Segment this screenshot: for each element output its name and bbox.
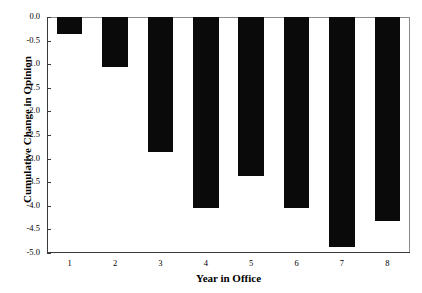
y-tick-label: -1.0 <box>0 58 47 70</box>
x-tick-label: 6 <box>282 258 312 268</box>
bar <box>284 17 309 208</box>
bar <box>329 17 354 247</box>
x-axis-title: Year in Office <box>47 272 410 284</box>
y-tick-label: 0.0 <box>0 11 47 23</box>
bar <box>238 17 263 176</box>
y-tick-label: -4.0 <box>0 200 47 212</box>
y-tick-mark <box>47 88 51 89</box>
x-tick-label: 7 <box>327 258 357 268</box>
y-tick-label: -2.0 <box>0 105 47 117</box>
x-tick-label: 8 <box>372 258 402 268</box>
x-tick-label: 4 <box>191 258 221 268</box>
y-tick-mark <box>47 41 51 42</box>
bar <box>148 17 173 152</box>
bar <box>102 17 127 67</box>
x-tick-label: 2 <box>100 258 130 268</box>
x-tick-label: 3 <box>145 258 175 268</box>
y-tick-label: -1.5 <box>0 82 47 94</box>
y-tick-mark <box>47 206 51 207</box>
y-tick-mark <box>47 159 51 160</box>
y-tick-mark <box>47 111 51 112</box>
y-tick-label: -0.5 <box>0 35 47 47</box>
bar <box>57 17 82 34</box>
bar-chart-figure: Cumulative Change in Opinion 0.0-0.5-1.0… <box>0 0 422 293</box>
bar <box>375 17 400 221</box>
y-tick-mark <box>47 229 51 230</box>
x-tick-label: 5 <box>236 258 266 268</box>
y-tick-mark <box>47 64 51 65</box>
y-tick-label: -2.5 <box>0 129 47 141</box>
y-tick-mark <box>47 182 51 183</box>
y-tick-mark <box>47 135 51 136</box>
bar <box>193 17 218 208</box>
y-tick-label: -3.5 <box>0 176 47 188</box>
x-tick-label: 1 <box>55 258 85 268</box>
y-tick-label: -5.0 <box>0 247 47 259</box>
y-tick-mark <box>47 253 51 254</box>
y-tick-label: -4.5 <box>0 223 47 235</box>
y-tick-label: -3.0 <box>0 153 47 165</box>
y-tick-mark <box>47 17 51 18</box>
